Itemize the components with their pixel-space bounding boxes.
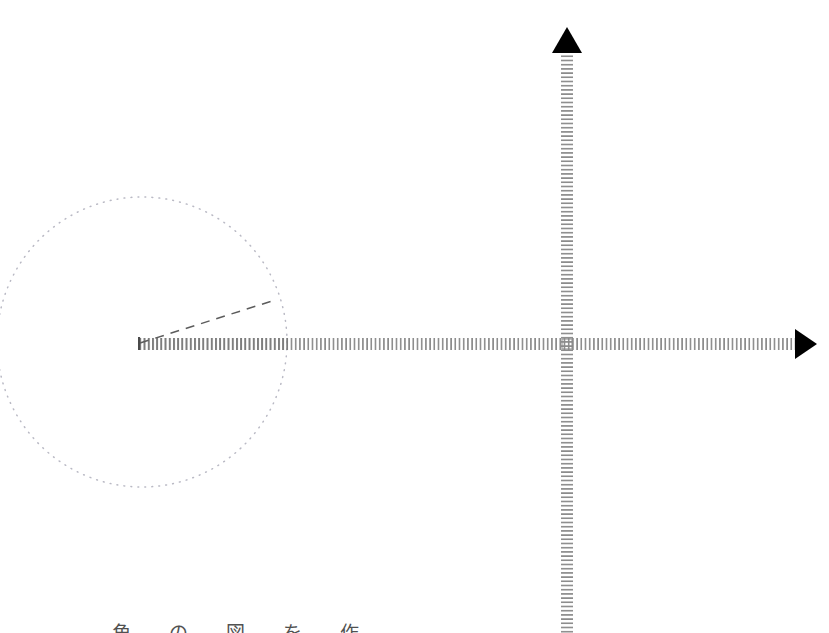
geometry-figure — [0, 0, 829, 633]
diagram-canvas: 角 の 図 を 作 — [0, 0, 829, 633]
x-axis-arrowhead — [795, 329, 817, 359]
y-axis-hatching — [561, 52, 573, 633]
clipped-bottom-caption: 角 の 図 を 作 — [112, 620, 372, 633]
initial-side-hatching — [138, 338, 288, 350]
y-axis — [552, 27, 582, 633]
y-axis-arrowhead — [552, 27, 582, 53]
angle-vertex-marker — [138, 337, 140, 350]
terminal-side-ray — [140, 301, 272, 343]
